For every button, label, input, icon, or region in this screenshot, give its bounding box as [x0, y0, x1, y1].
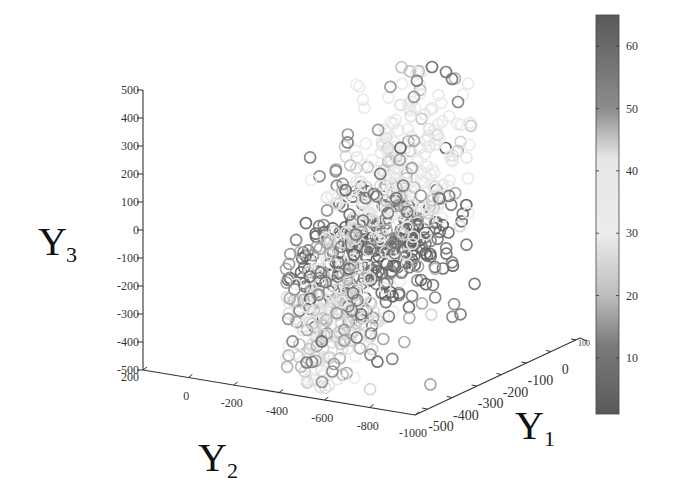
- z-tick-label: -100: [117, 251, 139, 265]
- z-tick-label: 300: [121, 139, 139, 153]
- data-point: [441, 67, 452, 78]
- y2-tick-label: -400: [266, 404, 288, 418]
- data-point: [404, 302, 415, 313]
- data-point: [300, 218, 311, 229]
- scatter3d-plot: 5004003002001000-100-200-300-400-500 200…: [0, 0, 674, 496]
- colorbar-tick-label: 40: [626, 164, 638, 178]
- z-tick-label: -400: [117, 335, 139, 349]
- data-point: [387, 353, 398, 364]
- data-point: [427, 62, 438, 73]
- data-point: [417, 298, 428, 309]
- y1-tick-label: -400: [453, 408, 479, 423]
- data-point: [372, 356, 383, 367]
- y1-tick-label: -300: [478, 396, 504, 411]
- y2-axis-title: Y 2: [198, 435, 238, 483]
- y2-tick-label: 200: [121, 370, 139, 384]
- y1-tick-label: -500: [428, 419, 454, 434]
- data-point: [463, 173, 474, 184]
- colorbar-tick-label: 50: [626, 102, 638, 116]
- z-tick-label: 200: [121, 167, 139, 181]
- data-point: [397, 78, 408, 89]
- svg-text:Y: Y: [38, 219, 67, 264]
- data-point: [469, 278, 480, 289]
- y2-tick-label: -200: [221, 396, 243, 410]
- data-point: [428, 280, 439, 291]
- data-point: [282, 361, 293, 372]
- svg-text:2: 2: [227, 458, 238, 483]
- y1-tick-label: -200: [503, 385, 529, 400]
- svg-text:Y: Y: [198, 435, 227, 480]
- data-point: [407, 291, 418, 302]
- y2-axis: 2000-200-400-600-800-1000: [121, 367, 427, 440]
- data-point: [449, 299, 460, 310]
- data-points: [281, 62, 481, 395]
- y1-tick-label: 0: [562, 362, 569, 377]
- z-tick-label: 100: [121, 195, 139, 209]
- svg-text:Y: Y: [515, 403, 544, 448]
- data-point: [430, 292, 441, 303]
- data-point: [461, 239, 472, 250]
- data-point: [378, 334, 389, 345]
- y2-tick-label: -800: [357, 419, 379, 433]
- data-point: [383, 92, 394, 103]
- colorbar-tick-label: 60: [626, 39, 638, 53]
- colorbar-tick-label: 30: [626, 226, 638, 240]
- z-tick-label: -200: [117, 279, 139, 293]
- y1-tick-label: 100: [578, 339, 590, 348]
- svg-text:1: 1: [544, 426, 555, 451]
- data-point: [360, 138, 371, 149]
- z-axis-title: Y 3: [38, 219, 77, 267]
- y2-tick-label: -600: [311, 411, 333, 425]
- data-point: [365, 384, 376, 395]
- y2-tick-label: -1000: [399, 426, 427, 440]
- data-point: [399, 337, 410, 348]
- svg-text:3: 3: [66, 242, 77, 267]
- colorbar: 605040302010: [596, 15, 638, 414]
- colorbar-tick-label: 20: [626, 289, 638, 303]
- y1-axis-title: Y 1: [515, 403, 555, 451]
- data-point: [322, 205, 333, 216]
- y2-tick-label: 0: [183, 389, 189, 403]
- data-point: [305, 152, 316, 163]
- data-point: [426, 309, 437, 320]
- colorbar-tick-label: 10: [626, 351, 638, 365]
- z-axis: 5004003002001000-100-200-300-400-500: [117, 83, 143, 377]
- data-point: [461, 152, 472, 163]
- data-point: [385, 81, 396, 92]
- y1-tick-label: -100: [527, 373, 553, 388]
- data-point: [291, 234, 302, 245]
- data-point: [404, 312, 415, 323]
- data-point: [432, 233, 443, 244]
- z-tick-label: -300: [117, 307, 139, 321]
- z-tick-label: 500: [121, 83, 139, 97]
- data-point: [425, 379, 436, 390]
- z-tick-label: 400: [121, 111, 139, 125]
- data-point: [354, 81, 365, 92]
- data-point: [380, 297, 391, 308]
- z-tick-label: 0: [133, 223, 139, 237]
- y1-axis: -500-400-300-200-1000100: [415, 338, 590, 434]
- data-point: [463, 78, 474, 89]
